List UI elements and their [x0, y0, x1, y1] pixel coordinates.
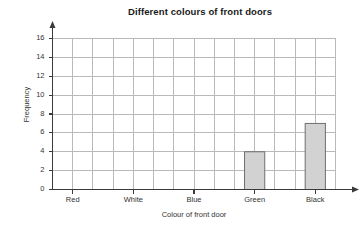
x-tick-label-white: White — [103, 195, 163, 204]
y-axis-arrow — [50, 21, 56, 28]
y-tick-label: 8 — [23, 110, 45, 118]
gridlines — [53, 39, 336, 190]
x-tick-label-red: Red — [43, 195, 103, 204]
y-tick-label: 6 — [23, 128, 45, 136]
x-tick-label-green: Green — [225, 195, 285, 204]
y-tick-label: 4 — [23, 147, 45, 155]
y-tick-label: 2 — [23, 166, 45, 174]
x-axis-arrow — [352, 187, 359, 193]
y-tick-label: 14 — [23, 53, 45, 61]
x-tick-label-blue: Blue — [164, 195, 224, 204]
y-tick-label: 16 — [23, 34, 45, 42]
bar-chart-figure: Different colours of front doors Frequen… — [0, 0, 364, 235]
bar-green — [245, 152, 265, 190]
y-tick-label: 0 — [23, 185, 45, 193]
y-tick-label: 12 — [23, 72, 45, 80]
y-tick-label: 10 — [23, 91, 45, 99]
x-tick-label-black: Black — [285, 195, 345, 204]
bar-black — [305, 123, 325, 189]
